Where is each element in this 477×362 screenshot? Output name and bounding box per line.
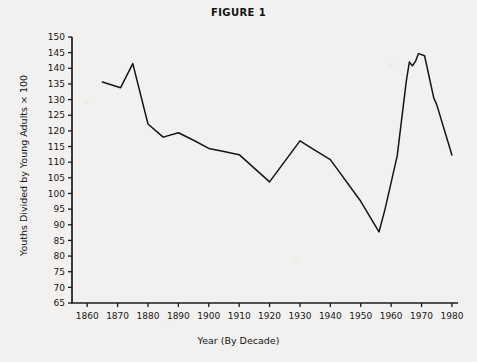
x-tick-label: 1940	[319, 311, 342, 321]
y-tick-label-group: 6570758085909510010511011512012513013514…	[48, 32, 65, 308]
x-tick-label: 1970	[410, 311, 433, 321]
figure-container: FIGURE 1 Youths Divided by Young Adults …	[0, 0, 477, 362]
x-tick-label: 1920	[258, 311, 281, 321]
chart-axes	[72, 37, 458, 303]
y-tick-label: 105	[48, 173, 65, 183]
x-tick-label-group: 1860187018801890190019101920193019401950…	[76, 311, 464, 321]
y-tick-label: 140	[48, 63, 65, 73]
y-tick-label: 145	[48, 48, 65, 58]
x-tick-label: 1960	[380, 311, 403, 321]
x-tick-label: 1860	[76, 311, 99, 321]
y-tick-label: 65	[54, 298, 65, 308]
x-tick-label: 1950	[349, 311, 372, 321]
x-tick-label: 1900	[197, 311, 220, 321]
y-tick-label: 85	[54, 236, 65, 246]
data-series-line	[102, 54, 452, 232]
x-tick-label: 1890	[167, 311, 190, 321]
y-tick-label: 120	[48, 126, 65, 136]
x-tick-label: 1910	[228, 311, 251, 321]
y-tick-label: 130	[48, 95, 65, 105]
y-tick-label: 115	[48, 142, 65, 152]
y-tick-label: 70	[54, 283, 66, 293]
line-chart-plot: 6570758085909510010511011512012513013514…	[0, 0, 477, 362]
x-tick-label: 1980	[440, 311, 463, 321]
y-tick-label: 100	[48, 189, 65, 199]
x-tick-label: 1930	[288, 311, 311, 321]
y-tick-label: 90	[54, 220, 66, 230]
y-tick-label: 95	[54, 204, 65, 214]
y-tick-label: 125	[48, 110, 65, 120]
y-tick-label: 150	[48, 32, 65, 42]
y-tick-label: 110	[48, 157, 65, 167]
y-tick-label: 135	[48, 79, 65, 89]
y-tick-label: 75	[54, 267, 65, 277]
x-tick-label: 1880	[137, 311, 160, 321]
x-tick-label: 1870	[106, 311, 129, 321]
y-tick-label: 80	[54, 251, 66, 261]
